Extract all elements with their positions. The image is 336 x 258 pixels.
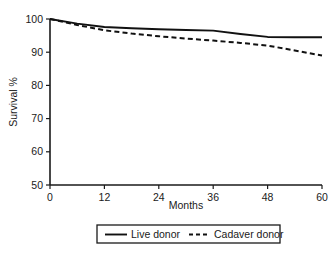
survival-chart: 5060708090100 01224364860 Months Surviva… bbox=[0, 0, 336, 258]
y-tick-label: 90 bbox=[31, 46, 43, 58]
x-tick-label: 48 bbox=[262, 191, 274, 203]
y-tick-label: 70 bbox=[31, 112, 43, 124]
chart-legend: Live donor Cadaver donor bbox=[97, 225, 284, 243]
y-tick-label: 80 bbox=[31, 79, 43, 91]
x-tick-label: 60 bbox=[316, 191, 328, 203]
survival-chart-figure: 5060708090100 01224364860 Months Surviva… bbox=[0, 0, 336, 258]
y-axis-title: Survival % bbox=[7, 77, 19, 127]
x-axis-title: Months bbox=[169, 199, 203, 211]
legend-label-cadaver-donor: Cadaver donor bbox=[214, 228, 284, 240]
y-tick-label: 50 bbox=[31, 179, 43, 191]
legend-label-live-donor: Live donor bbox=[131, 228, 181, 240]
y-tick-label: 60 bbox=[31, 145, 43, 157]
y-tick-label: 100 bbox=[25, 13, 43, 25]
x-tick-label: 24 bbox=[153, 191, 165, 203]
x-tick-label: 36 bbox=[207, 191, 219, 203]
x-tick-label: 12 bbox=[99, 191, 111, 203]
x-tick-label: 0 bbox=[47, 191, 53, 203]
